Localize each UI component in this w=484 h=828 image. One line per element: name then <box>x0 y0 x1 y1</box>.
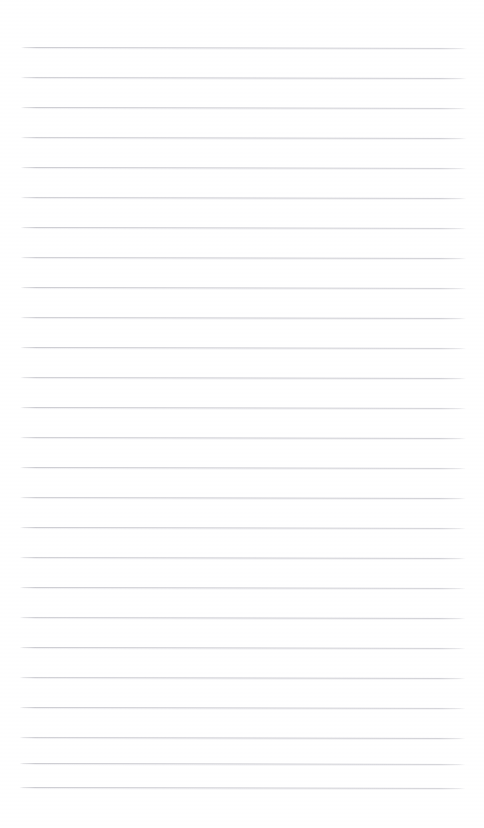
ruled-line <box>21 137 467 139</box>
ruled-line-group <box>0 0 484 828</box>
ruled-line <box>20 287 466 289</box>
ruled-line <box>19 787 465 789</box>
ruled-line <box>20 377 466 379</box>
ruled-line <box>20 617 466 619</box>
ruled-line <box>20 317 466 319</box>
ruled-line <box>21 227 467 229</box>
ruled-line <box>20 587 466 589</box>
ruled-line <box>19 737 465 739</box>
ruled-line <box>20 527 466 529</box>
ruled-line <box>21 167 467 169</box>
ruled-line <box>21 197 467 199</box>
ruled-line <box>20 647 466 649</box>
ruled-line <box>20 467 466 469</box>
ruled-line <box>21 47 467 49</box>
ruled-line <box>20 557 466 559</box>
ruled-line <box>21 107 467 109</box>
ruled-line <box>19 763 465 765</box>
ruled-line <box>20 407 466 409</box>
ruled-line <box>20 437 466 439</box>
ruled-paper-page <box>0 0 484 828</box>
ruled-line <box>20 257 466 259</box>
ruled-line <box>20 497 466 499</box>
ruled-line <box>20 347 466 349</box>
ruled-line <box>20 707 466 709</box>
ruled-line <box>21 77 467 79</box>
ruled-line <box>20 677 466 679</box>
